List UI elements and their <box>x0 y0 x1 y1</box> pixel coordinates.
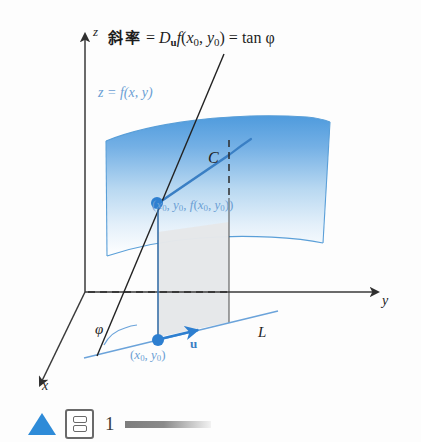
point-2d-coordinate-label: (x0, y0) <box>130 348 166 363</box>
axis-x <box>40 292 85 385</box>
curve-c-label: C <box>208 150 219 166</box>
line-l-label: L <box>258 325 266 340</box>
figure-number: 1 <box>105 413 115 435</box>
point-in-plane <box>152 334 164 346</box>
axis-label-z: z <box>93 25 98 38</box>
gradient-scale-bar <box>125 421 211 428</box>
angle-phi-label: φ <box>95 322 103 337</box>
point-3d-coordinate-label: (x0, y0, f(x0, y0)) <box>152 198 233 213</box>
title-cjk-prefix: 斜率 <box>108 29 142 47</box>
title-args: (x0, y0) <box>181 29 225 46</box>
panel-segment-top <box>73 416 87 423</box>
axis-label-x: x <box>42 379 48 393</box>
axis-label-y: y <box>382 294 388 308</box>
panel-segment-bottom <box>73 425 87 432</box>
title-operator: D <box>159 29 171 46</box>
stacked-panels-icon[interactable] <box>65 409 94 439</box>
figure-footer: 1 <box>28 409 211 439</box>
surface-equation-label: z = f(x, y) <box>98 86 153 100</box>
directional-derivative-diagram <box>0 0 421 442</box>
title-result: tan φ <box>242 29 275 46</box>
title-equation: 斜率 = Duf(x0, y0) = tan φ <box>108 30 275 48</box>
vector-u-label: u <box>190 337 197 350</box>
title-equals-2: = <box>229 29 238 46</box>
triangle-up-icon[interactable] <box>28 413 56 435</box>
title-equals-1: = <box>146 29 155 46</box>
surface-equation-text: z = f(x, y) <box>98 85 153 100</box>
figure-container: 斜率 = Duf(x0, y0) = tan φ z = f(x, y) (x0… <box>0 0 421 442</box>
